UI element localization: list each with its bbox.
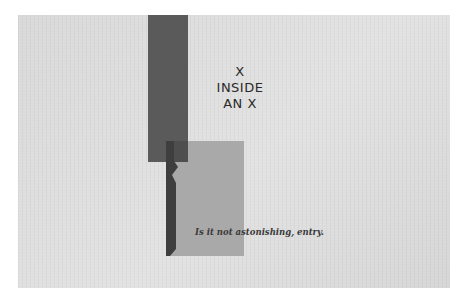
headline: X INSIDE AN X <box>200 64 280 112</box>
profile-silhouette-icon <box>166 141 180 256</box>
headline-line-1: X <box>200 64 280 80</box>
headline-line-3: AN X <box>200 96 280 112</box>
caption-text: Is it not astonishing, entry. <box>195 227 324 237</box>
headline-line-2: INSIDE <box>200 80 280 96</box>
dark-vertical-bar <box>148 15 188 162</box>
